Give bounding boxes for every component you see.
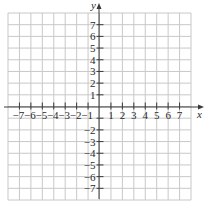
x-axis-label: x — [196, 108, 202, 120]
y-tick-label: 7 — [90, 19, 96, 31]
y-axis-arrow-icon — [97, 3, 102, 9]
x-tick-label: −4 — [47, 109, 59, 121]
y-tick-label: 5 — [90, 42, 96, 54]
coordinate-plane: x y −7−6−5−4−3−2−112345677654321−2−3−4−5… — [0, 0, 208, 209]
y-tick-label: 6 — [90, 30, 96, 42]
y-tick-label: 3 — [90, 65, 96, 77]
y-tick-label: −4 — [84, 147, 96, 159]
x-tick-label: −5 — [35, 109, 47, 121]
x-tick-label: −6 — [24, 109, 36, 121]
x-tick-label: 2 — [120, 109, 126, 121]
x-tick-label: −1 — [81, 109, 93, 121]
x-tick-label: 7 — [177, 109, 183, 121]
y-tick-label: −6 — [84, 171, 96, 183]
x-tick-label: 5 — [154, 109, 160, 121]
y-tick-label: −2 — [84, 124, 96, 136]
y-tick-label: −3 — [84, 136, 96, 148]
x-tick-label: −7 — [13, 109, 25, 121]
x-tick-label: 6 — [165, 109, 171, 121]
y-tick-label: 4 — [90, 54, 96, 66]
y-tick-label: 2 — [90, 77, 96, 89]
x-tick-label: −2 — [70, 109, 82, 121]
y-axis-label: y — [90, 0, 96, 11]
y-tick-label: 1 — [90, 89, 96, 101]
x-tick-label: 3 — [131, 109, 137, 121]
x-tick-label: 1 — [108, 109, 114, 121]
x-tick-label: 4 — [143, 109, 149, 121]
axes: x y — [4, 0, 204, 199]
y-tick-label: −7 — [84, 182, 96, 194]
x-tick-label: −3 — [58, 109, 70, 121]
y-tick-label: −5 — [84, 159, 96, 171]
